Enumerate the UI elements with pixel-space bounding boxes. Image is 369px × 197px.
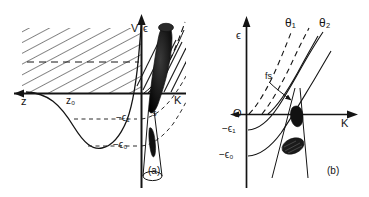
panel-b-origin-label: O xyxy=(233,108,242,119)
transition-line-right xyxy=(300,88,308,178)
panel-a-position-label-z0: z₀ xyxy=(66,96,75,106)
figure-vector-graphics xyxy=(0,0,369,197)
panel-b-theta-2-label: θ₂ xyxy=(319,17,330,29)
panel-a-vertical-axis-label-epsilon: ϵ xyxy=(143,23,148,34)
panel-b-caption: (b) xyxy=(327,166,339,176)
panel-a-s-label: s xyxy=(152,109,157,118)
panel-b-theta-1-label: θ₁ xyxy=(285,17,296,29)
branch-extra-upper xyxy=(268,36,318,114)
panel-b-horizontal-axis-label: K xyxy=(341,118,348,129)
panel-a-branch-epsilon-0 xyxy=(142,102,187,146)
panel-a-caption: (a) xyxy=(148,166,160,176)
panel-b-epsilon-arrowhead xyxy=(243,16,251,27)
panel-b-level-label-epsilon-1: −ϵ₁ xyxy=(222,124,236,134)
panel-a-level-label-epsilon-1: −ϵ₁ xyxy=(116,113,130,123)
panel-b-group xyxy=(230,16,358,188)
upper-emission-cone xyxy=(149,25,173,113)
filled-region-epsilon-0 xyxy=(280,135,307,158)
panel-b-vertical-axis-label: ϵ xyxy=(236,30,241,41)
panel-a-group xyxy=(14,14,188,188)
panel-a-vertical-axis-label-v: V xyxy=(131,23,138,34)
lower-cone-dark-lens xyxy=(149,128,156,157)
upper-cone-cap xyxy=(159,23,174,31)
transition-line-left xyxy=(272,88,295,178)
panel-a-horizontal-axis-label-k: K xyxy=(174,95,181,106)
panel-b-level-label-epsilon-0: −ϵ₀ xyxy=(219,150,233,160)
panel-b-fs-label: fs xyxy=(265,72,272,81)
panel-b-k-arrowhead xyxy=(347,111,358,119)
panel-a-horizontal-axis-label-z: z xyxy=(21,96,27,107)
panel-a-level-label-epsilon-0: −ϵ₀ xyxy=(113,140,127,150)
scientific-figure: V ϵ z K z₀ −ϵ₁ −ϵ₀ s (a) ϵ K O −ϵ₁ −ϵ₀ f… xyxy=(0,0,369,197)
filled-region-epsilon-1 xyxy=(290,106,303,127)
